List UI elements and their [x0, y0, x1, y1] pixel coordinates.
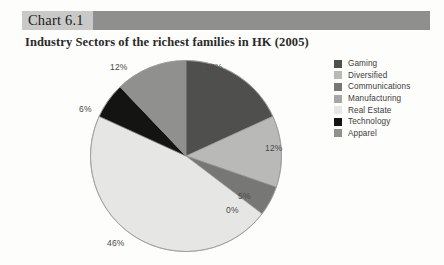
legend-swatch-icon [334, 60, 342, 68]
chart-header-band: Chart 6.1 [22, 11, 430, 30]
legend-label: Communications [348, 82, 410, 91]
legend-item: Diversified [334, 70, 438, 82]
legend-swatch-icon [334, 71, 342, 79]
legend-label: Real Estate [348, 106, 391, 115]
slice-label-technology: 6% [79, 104, 92, 114]
legend-item: Communications [334, 81, 438, 93]
legend-label: Diversified [348, 71, 387, 80]
legend-swatch-icon [334, 129, 342, 137]
legend-item: Gaming [334, 58, 438, 70]
pie-svg [88, 58, 284, 254]
pie-slices [90, 61, 281, 252]
legend-swatch-icon [334, 106, 342, 114]
slice-label-manufacturing: 0% [226, 205, 239, 215]
slice-label-real-estate: 46% [107, 238, 125, 248]
legend-swatch-icon [334, 95, 342, 103]
slice-label-apparel: 12% [110, 62, 128, 72]
legend-label: Technology [348, 117, 390, 126]
chart-figure: Chart 6.1 Industry Sectors of the riches… [0, 0, 444, 265]
slice-label-gaming: 18% [205, 62, 223, 72]
chart-subtitle: Industry Sectors of the richest families… [25, 35, 309, 50]
chart-legend: GamingDiversifiedCommunicationsManufactu… [334, 58, 438, 139]
legend-swatch-icon [334, 118, 342, 126]
slice-label-communications: 5% [238, 191, 251, 201]
chart-number-box: Chart 6.1 [22, 11, 93, 30]
legend-label: Gaming [348, 59, 377, 68]
legend-item: Apparel [334, 128, 438, 140]
legend-swatch-icon [334, 83, 342, 91]
chart-number-label: Chart 6.1 [28, 13, 84, 28]
legend-label: Apparel [348, 129, 377, 138]
header-bar-fill [93, 11, 430, 30]
legend-item: Real Estate [334, 104, 438, 116]
legend-item: Manufacturing [334, 93, 438, 105]
legend-label: Manufacturing [348, 94, 401, 103]
slice-label-diversified: 12% [265, 143, 283, 153]
legend-item: Technology [334, 116, 438, 128]
plot-area: 18% 12% 5% 0% 46% 6% 12% GamingDiversifi… [0, 52, 444, 265]
pie-chart: 18% 12% 5% 0% 46% 6% 12% [88, 58, 284, 254]
